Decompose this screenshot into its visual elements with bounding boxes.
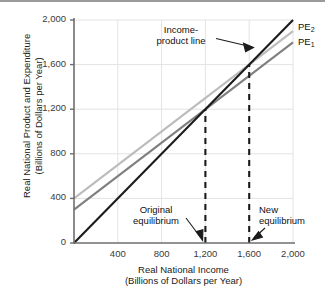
y-axis-title-line2: (Billions of Dollars per Year) (33, 31, 45, 201)
income-product-line-label: Income- product line (142, 25, 220, 46)
y-tick-0: 0 (32, 237, 66, 248)
original-equilibrium-label-line2: equilibrium (124, 216, 188, 227)
new-equilibrium-label-line2: equilibrium (259, 216, 323, 227)
series-label-pe2: PE2 (298, 22, 315, 33)
series-label-pe1-sub: 1 (311, 41, 315, 48)
grid-horizontal (74, 20, 293, 198)
series-label-pe2-sub: 2 (311, 26, 315, 33)
x-tick-2000: 2,000 (275, 249, 311, 260)
series-label-pe2-text: PE (298, 21, 311, 32)
x-tick-800: 800 (146, 249, 178, 260)
income-product-arrow (216, 39, 254, 52)
x-tick-400: 400 (102, 249, 134, 260)
x-axis-title-line2: (Billions of Dollars per Year) (74, 276, 293, 287)
income-product-line-label-line2: product line (142, 36, 220, 47)
keynesian-cross-figure: 2,000 1,600 1,200 800 400 0 400 800 1,20… (0, 0, 325, 303)
y-tick-2000: 2,000 (32, 14, 66, 25)
series-label-pe1-text: PE (298, 36, 311, 47)
series-label-pe1: PE1 (298, 37, 315, 48)
y-axis-title: Real National Product and Expenditure (B… (21, 31, 45, 201)
series-pe2 (74, 31, 293, 198)
original-equilibrium-label: Original equilibrium (124, 205, 188, 226)
series-pe1 (74, 42, 293, 209)
original-equilibrium-arrow (186, 218, 203, 240)
x-axis-title: Real National Income (Billions of Dollar… (74, 265, 293, 286)
x-tick-1200: 1,200 (187, 249, 223, 260)
new-equilibrium-arrow (252, 228, 265, 240)
x-tick-1600: 1,600 (231, 249, 267, 260)
new-equilibrium-label: New equilibrium (259, 205, 323, 226)
y-axis-title-line1: Real National Product and Expenditure (21, 31, 33, 201)
